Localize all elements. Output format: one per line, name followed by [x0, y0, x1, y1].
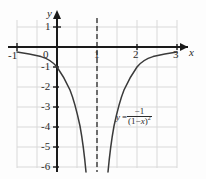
x-tick-label-0: 0: [43, 49, 49, 60]
equation-fraction: −1 (1−x)2: [127, 107, 152, 127]
y-tick-label-neg2: -2: [41, 81, 50, 92]
x-tick-label-2: 2: [133, 49, 139, 60]
x-tick-label-3: 3: [173, 49, 179, 60]
equation-annotation: y = −1 (1−x)2: [116, 107, 152, 127]
x-axis-label: x: [189, 47, 194, 58]
y-tick-label-neg4: -4: [41, 121, 50, 132]
y-axis-label: y: [47, 8, 52, 19]
y-tick-label-neg5: -5: [41, 141, 50, 152]
graph-figure: -1 0 1 2 3 1 -1 -2 -3 -4 -5 -6 x y y = −…: [0, 0, 206, 179]
equation-lhs: y: [116, 112, 120, 122]
denominator-open: (1−: [128, 116, 141, 126]
x-tick-label-neg1: -1: [8, 50, 17, 61]
denominator-exponent: 2: [148, 115, 151, 121]
graph-canvas: [0, 0, 206, 179]
y-tick-label-neg1: -1: [41, 61, 50, 72]
y-tick-label-1: 1: [45, 21, 51, 32]
equation-denominator: (1−x)2: [127, 117, 152, 126]
x-tick-label-1: 1: [94, 49, 100, 60]
curve-left-branch: [17, 52, 86, 172]
y-tick-label-neg6: -6: [41, 161, 50, 172]
y-tick-label-neg3: -3: [41, 101, 50, 112]
